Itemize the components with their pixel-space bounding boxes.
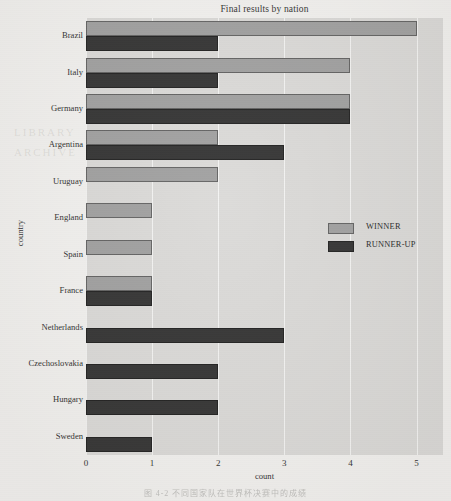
- chart-legend: WINNER RUNNER-UP: [328, 222, 433, 258]
- y-tick-germany: Germany: [0, 103, 83, 113]
- legend-swatch-runner-up-icon: [328, 241, 354, 252]
- y-tick-hungary: Hungary: [0, 394, 83, 404]
- x-tick-0: 0: [76, 458, 96, 468]
- bar-germany-runner-up: [86, 109, 350, 124]
- y-tick-netherlands: Netherlands: [0, 322, 83, 332]
- x-tick-1: 1: [142, 458, 162, 468]
- bar-netherlands-runner-up: [86, 328, 284, 343]
- bar-france-winner: [86, 276, 152, 291]
- legend-item-runner-up: RUNNER-UP: [328, 240, 433, 254]
- y-tick-argentina: Argentina: [0, 139, 83, 149]
- y-tick-czechoslovakia: Czechoslovakia: [0, 358, 83, 368]
- bar-france-runner-up: [86, 291, 152, 306]
- y-tick-sweden: Sweden: [0, 431, 83, 441]
- y-tick-uruguay: Uruguay: [0, 176, 83, 186]
- x-tick-5: 5: [407, 458, 427, 468]
- legend-swatch-winner-icon: [328, 223, 354, 234]
- y-tick-brazil: Brazil: [0, 30, 83, 40]
- gridline-x-3: [284, 18, 285, 455]
- bar-italy-winner: [86, 58, 350, 73]
- bar-czechoslovakia-runner-up: [86, 364, 218, 379]
- bar-italy-runner-up: [86, 73, 218, 88]
- x-axis-title: count: [86, 471, 443, 481]
- y-tick-spain: Spain: [0, 249, 83, 259]
- bar-argentina-runner-up: [86, 145, 284, 160]
- y-tick-england: England: [0, 212, 83, 222]
- y-tick-france: France: [0, 285, 83, 295]
- y-axis-title: country: [15, 203, 25, 263]
- bar-sweden-runner-up: [86, 437, 152, 452]
- x-tick-4: 4: [340, 458, 360, 468]
- bar-england-winner: [86, 203, 152, 218]
- bar-argentina-winner: [86, 130, 218, 145]
- bar-uruguay-winner: [86, 167, 218, 182]
- gridline-x-2: [218, 18, 219, 455]
- bar-brazil-runner-up: [86, 36, 218, 51]
- bar-hungary-runner-up: [86, 400, 218, 415]
- legend-label-runner-up: RUNNER-UP: [366, 240, 416, 249]
- chart-figure: LIBRARY ARCHIVE Final results by nation …: [0, 0, 451, 501]
- ghost-bleed-left: LIBRARY: [14, 126, 76, 138]
- legend-label-winner: WINNER: [366, 222, 401, 231]
- x-tick-2: 2: [208, 458, 228, 468]
- legend-item-winner: WINNER: [328, 222, 433, 236]
- x-tick-3: 3: [274, 458, 294, 468]
- bar-spain-winner: [86, 240, 152, 255]
- bar-brazil-winner: [86, 21, 417, 36]
- page-caption: 图 4-2 不同国家队在世界杯决赛中的成绩: [0, 487, 451, 498]
- y-tick-italy: Italy: [0, 67, 83, 77]
- bar-germany-winner: [86, 94, 350, 109]
- chart-title: Final results by nation: [86, 4, 443, 14]
